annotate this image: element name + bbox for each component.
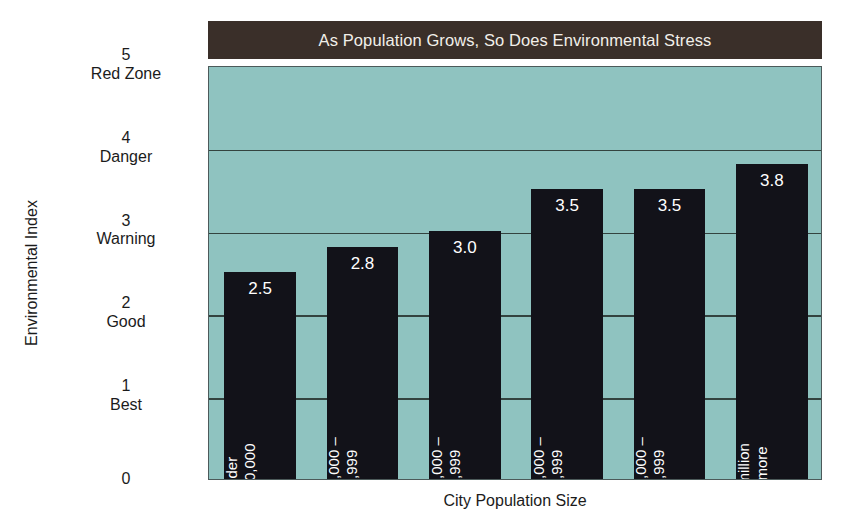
y-tick-label-1: 1Best — [60, 377, 192, 415]
y-tick-label-4: 4Danger — [60, 129, 192, 167]
bar: 3.81 millionor more — [736, 164, 808, 479]
bar-category-line-1: 500,000 – — [633, 438, 651, 480]
bar: 2.5Under100,000 — [224, 272, 296, 479]
bar-value-label: 3.8 — [736, 171, 808, 191]
bar-category-label: Under100,000 — [224, 444, 261, 480]
bar-category-label: 100,000 –149,999 — [326, 438, 363, 480]
bar-category-line-1: 100,000 – — [326, 438, 344, 480]
y-tick-number: 2 — [60, 294, 192, 313]
bar: 2.8100,000 –149,999 — [327, 247, 399, 479]
y-tick-label-5: 5Red Zone — [60, 46, 192, 84]
bar-value-label: 2.8 — [327, 254, 399, 274]
bar-category-line-1: Under — [224, 444, 242, 480]
y-tick-number: 1 — [60, 377, 192, 396]
chart-title-banner: As Population Grows, So Does Environment… — [208, 21, 822, 59]
bar: 3.5500,000 –999,999 — [634, 189, 706, 479]
y-tick-label-2: 2Good — [60, 294, 192, 332]
environmental-index-bar-chart: As Population Grows, So Does Environment… — [0, 0, 863, 526]
y-axis-title: Environmental Index — [23, 63, 41, 483]
bar: 3.5250,000 –499,999 — [531, 189, 603, 479]
y-tick-word: Warning — [60, 230, 192, 249]
bars-layer: 2.5Under100,0002.8100,000 –149,9993.0150… — [209, 67, 821, 479]
y-tick-label-0: 0 — [60, 470, 192, 489]
bar-category-line-2: or more — [754, 443, 772, 480]
y-tick-word: Good — [60, 313, 192, 332]
bar-category-line-2: 249,999 — [447, 438, 465, 480]
y-tick-word: Red Zone — [60, 65, 192, 84]
bar-category-line-2: 499,999 — [549, 438, 567, 480]
bar-category-label: 250,000 –499,999 — [531, 438, 568, 480]
y-tick-label-3: 3Warning — [60, 212, 192, 250]
y-tick-number: 5 — [60, 46, 192, 65]
x-axis-title: City Population Size — [208, 492, 822, 510]
y-axis-tick-label-group: 01Best2Good3Warning4Danger5Red Zone — [60, 66, 200, 480]
chart-title: As Population Grows, So Does Environment… — [319, 31, 712, 50]
bar-value-label: 3.5 — [531, 196, 603, 216]
bar-category-line-1: 250,000 – — [531, 438, 549, 480]
bar-value-label: 3.0 — [429, 238, 501, 258]
y-tick-word: Danger — [60, 148, 192, 167]
bar-category-line-1: 1 million — [735, 443, 753, 480]
bar-category-line-1: 150,000 – — [428, 438, 446, 480]
bar-category-line-2: 999,999 — [651, 438, 669, 480]
y-tick-word: Best — [60, 396, 192, 415]
bar-category-line-2: 149,999 — [344, 438, 362, 480]
bar-value-label: 2.5 — [224, 279, 296, 299]
bar: 3.0150,000 –249,999 — [429, 231, 501, 479]
bar-category-label: 1 millionor more — [735, 443, 772, 480]
plot-area: 2.5Under100,0002.8100,000 –149,9993.0150… — [208, 66, 822, 480]
y-tick-number: 4 — [60, 129, 192, 148]
y-tick-number: 3 — [60, 212, 192, 231]
bar-category-label: 150,000 –249,999 — [428, 438, 465, 480]
y-tick-number: 0 — [60, 470, 192, 489]
bar-value-label: 3.5 — [634, 196, 706, 216]
bar-category-line-2: 100,000 — [242, 444, 260, 480]
bar-category-label: 500,000 –999,999 — [633, 438, 670, 480]
